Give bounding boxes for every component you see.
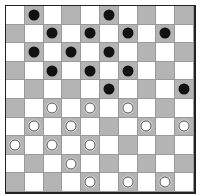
board-square-r6-c5[interactable] <box>100 118 119 137</box>
board-square-r6-c2[interactable] <box>44 118 63 137</box>
board-square-r9-c7[interactable] <box>138 173 157 192</box>
board-square-r4-c8[interactable] <box>156 80 175 99</box>
board-square-r9-c9[interactable] <box>175 173 194 192</box>
board-square-r8-c8[interactable] <box>156 155 175 174</box>
board-square-r4-c6[interactable] <box>119 80 138 99</box>
board-square-r7-c6[interactable] <box>119 136 138 155</box>
board-square-r5-c6[interactable] <box>119 99 138 118</box>
board-square-r6-c3[interactable] <box>62 118 81 137</box>
board-square-r7-c8[interactable] <box>156 136 175 155</box>
board-square-r3-c1[interactable] <box>25 62 44 81</box>
board-square-r7-c1[interactable] <box>25 136 44 155</box>
white-piece[interactable] <box>122 102 133 113</box>
board-square-r4-c0[interactable] <box>6 80 25 99</box>
board-square-r4-c3[interactable] <box>62 80 81 99</box>
board-square-r7-c5[interactable] <box>100 136 119 155</box>
board-square-r6-c9[interactable] <box>175 118 194 137</box>
board-square-r6-c1[interactable] <box>25 118 44 137</box>
board-square-r3-c0[interactable] <box>6 62 25 81</box>
board-square-r3-c3[interactable] <box>62 62 81 81</box>
board-square-r4-c9[interactable] <box>175 80 194 99</box>
black-piece[interactable] <box>47 28 58 39</box>
board-square-r1-c5[interactable] <box>100 25 119 44</box>
board-square-r5-c2[interactable] <box>44 99 63 118</box>
board-square-r0-c4[interactable] <box>81 6 100 25</box>
board-square-r6-c7[interactable] <box>138 118 157 137</box>
board-square-r8-c9[interactable] <box>175 155 194 174</box>
white-piece[interactable] <box>28 121 39 132</box>
black-piece[interactable] <box>28 46 39 57</box>
board-square-r4-c2[interactable] <box>44 80 63 99</box>
board-square-r6-c0[interactable] <box>6 118 25 137</box>
board-square-r2-c6[interactable] <box>119 43 138 62</box>
board-square-r1-c3[interactable] <box>62 25 81 44</box>
board-square-r0-c3[interactable] <box>62 6 81 25</box>
board-square-r5-c9[interactable] <box>175 99 194 118</box>
white-piece[interactable] <box>85 102 96 113</box>
board-square-r9-c4[interactable] <box>81 173 100 192</box>
black-piece[interactable] <box>47 65 58 76</box>
board-square-r7-c0[interactable] <box>6 136 25 155</box>
board-square-r0-c1[interactable] <box>25 6 44 25</box>
board-square-r9-c2[interactable] <box>44 173 63 192</box>
board-square-r8-c4[interactable] <box>81 155 100 174</box>
board-square-r2-c8[interactable] <box>156 43 175 62</box>
black-piece[interactable] <box>28 9 39 20</box>
board-square-r5-c3[interactable] <box>62 99 81 118</box>
board-square-r2-c7[interactable] <box>138 43 157 62</box>
board-square-r2-c2[interactable] <box>44 43 63 62</box>
white-piece[interactable] <box>179 121 190 132</box>
white-piece[interactable] <box>141 121 152 132</box>
board-square-r9-c3[interactable] <box>62 173 81 192</box>
white-piece[interactable] <box>85 139 96 150</box>
black-piece[interactable] <box>179 84 190 95</box>
board-square-r8-c7[interactable] <box>138 155 157 174</box>
board-square-r6-c8[interactable] <box>156 118 175 137</box>
board-square-r2-c5[interactable] <box>100 43 119 62</box>
board-square-r4-c7[interactable] <box>138 80 157 99</box>
board-square-r7-c2[interactable] <box>44 136 63 155</box>
board-square-r5-c8[interactable] <box>156 99 175 118</box>
board-square-r9-c1[interactable] <box>25 173 44 192</box>
board-square-r0-c8[interactable] <box>156 6 175 25</box>
board-square-r3-c9[interactable] <box>175 62 194 81</box>
board-square-r5-c4[interactable] <box>81 99 100 118</box>
board-square-r7-c4[interactable] <box>81 136 100 155</box>
board-square-r3-c2[interactable] <box>44 62 63 81</box>
black-piece[interactable] <box>160 28 171 39</box>
board-square-r3-c5[interactable] <box>100 62 119 81</box>
black-piece[interactable] <box>103 46 114 57</box>
black-piece[interactable] <box>122 65 133 76</box>
white-piece[interactable] <box>85 177 96 188</box>
board-square-r0-c5[interactable] <box>100 6 119 25</box>
board-square-r2-c4[interactable] <box>81 43 100 62</box>
board-square-r2-c3[interactable] <box>62 43 81 62</box>
board-square-r0-c6[interactable] <box>119 6 138 25</box>
board-square-r2-c0[interactable] <box>6 43 25 62</box>
board-square-r3-c6[interactable] <box>119 62 138 81</box>
board-square-r3-c4[interactable] <box>81 62 100 81</box>
board-square-r7-c7[interactable] <box>138 136 157 155</box>
white-piece[interactable] <box>66 158 77 169</box>
board-square-r1-c1[interactable] <box>25 25 44 44</box>
board-square-r8-c1[interactable] <box>25 155 44 174</box>
black-piece[interactable] <box>85 65 96 76</box>
white-piece[interactable] <box>47 102 58 113</box>
board-square-r5-c0[interactable] <box>6 99 25 118</box>
board-square-r4-c5[interactable] <box>100 80 119 99</box>
board-square-r1-c6[interactable] <box>119 25 138 44</box>
board-square-r5-c7[interactable] <box>138 99 157 118</box>
white-piece[interactable] <box>47 139 58 150</box>
board-square-r0-c7[interactable] <box>138 6 157 25</box>
black-piece[interactable] <box>85 28 96 39</box>
board-square-r7-c9[interactable] <box>175 136 194 155</box>
board-square-r3-c8[interactable] <box>156 62 175 81</box>
board-square-r5-c5[interactable] <box>100 99 119 118</box>
board-square-r1-c8[interactable] <box>156 25 175 44</box>
board-square-r1-c0[interactable] <box>6 25 25 44</box>
board-square-r3-c7[interactable] <box>138 62 157 81</box>
black-piece[interactable] <box>103 9 114 20</box>
board-square-r1-c2[interactable] <box>44 25 63 44</box>
white-piece[interactable] <box>122 177 133 188</box>
board-square-r1-c4[interactable] <box>81 25 100 44</box>
